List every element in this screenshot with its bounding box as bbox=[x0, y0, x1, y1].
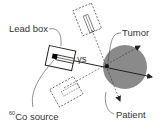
lead-box-dashed-bottom bbox=[50, 76, 83, 107]
leader-lead-box bbox=[49, 29, 61, 46]
label-tumor: Tumor bbox=[122, 28, 149, 38]
label-patient: Patient bbox=[116, 110, 146, 120]
label-gamma-rays: γs bbox=[77, 54, 87, 64]
label-lead-box: Lead box bbox=[9, 24, 48, 34]
leader-patient bbox=[105, 92, 114, 114]
lead-box-solid bbox=[45, 46, 76, 71]
lead-box-dashed-top bbox=[73, 3, 102, 36]
cobalt-source-square bbox=[52, 53, 58, 59]
label-co-source: 60Co source bbox=[9, 112, 58, 122]
isotope-mass: 60 bbox=[9, 110, 15, 116]
source-name: Co source bbox=[15, 111, 58, 122]
leader-co-source bbox=[32, 60, 54, 107]
tumor-dot bbox=[105, 64, 109, 68]
